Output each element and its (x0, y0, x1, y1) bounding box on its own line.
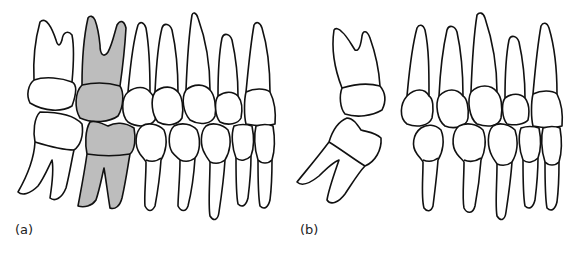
lower-molar-b-tipped (297, 118, 381, 203)
lower-canine-b (488, 124, 517, 220)
dentition-diagram-b (287, 0, 574, 254)
lower-incisor-a-2 (255, 125, 275, 209)
upper-incisor-b-2 (532, 23, 563, 127)
panel-label-b: (b) (300, 222, 318, 237)
upper-premolar-b-2 (437, 26, 468, 127)
upper-premolar-a-1 (123, 23, 157, 126)
upper-molar-a-1 (28, 20, 76, 110)
lower-incisor-b-2 (542, 127, 562, 211)
lower-incisor-b-1 (519, 127, 540, 209)
lower-premolar-b-2 (453, 124, 485, 212)
upper-incisor-a-2 (245, 23, 276, 126)
lower-premolar-a-2 (169, 124, 199, 211)
upper-canine-b (469, 13, 502, 126)
panel-b: (b) (287, 0, 574, 254)
upper-premolar-b-1 (401, 25, 433, 126)
upper-premolar-a-2 (152, 24, 183, 124)
upper-canine-a (183, 13, 215, 123)
lower-canine-a (201, 124, 230, 220)
lower-incisor-a-1 (232, 125, 253, 207)
lower-premolar-b-1 (414, 125, 444, 211)
dentition-diagram-a (0, 0, 287, 254)
lower-molar-a-1 (18, 112, 83, 200)
upper-molar-b-tipped (333, 29, 385, 116)
lower-molar-a-2-shaded (78, 121, 135, 208)
upper-incisor-b-1 (503, 36, 529, 124)
lower-premolar-a-1 (136, 124, 166, 211)
panel-label-a: (a) (15, 222, 33, 237)
upper-incisor-a-1 (216, 34, 242, 124)
panel-a: (a) (0, 0, 287, 254)
upper-molar-a-2-shaded (76, 16, 126, 121)
